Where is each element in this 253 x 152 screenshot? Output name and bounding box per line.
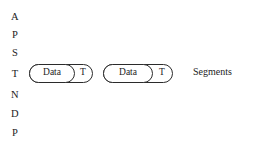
segment-row: DataTDataT: [29, 64, 173, 83]
segment-transport-header-label: T: [159, 68, 165, 78]
segment-data-label: Data: [43, 68, 61, 78]
layer-letter-application: A: [0, 12, 30, 23]
layer-letter-physical: P: [0, 128, 30, 139]
layer-letter-session: S: [0, 48, 30, 59]
layer-letter-transport: T: [0, 69, 30, 80]
segment-capsule: DataT: [103, 64, 173, 83]
segment-transport-header: T: [153, 64, 172, 83]
segment-data-label: Data: [119, 68, 137, 78]
segment-transport-header: T: [75, 64, 92, 83]
segment-transport-header-label: T: [80, 68, 86, 78]
segment-capsule: DataT: [29, 64, 93, 83]
segment-data-field: Data: [103, 64, 153, 83]
segments-caption: Segments: [193, 67, 232, 77]
layer-letter-presentation: P: [0, 30, 30, 41]
transport-layer-segments-figure: APSTNDP DataTDataT Segments: [0, 0, 253, 152]
segment-data-field: Data: [29, 64, 75, 83]
layer-letter-network: N: [0, 90, 30, 101]
osi-layer-initials-column: APSTNDP: [0, 0, 30, 152]
layer-letter-data-link: D: [0, 109, 30, 120]
